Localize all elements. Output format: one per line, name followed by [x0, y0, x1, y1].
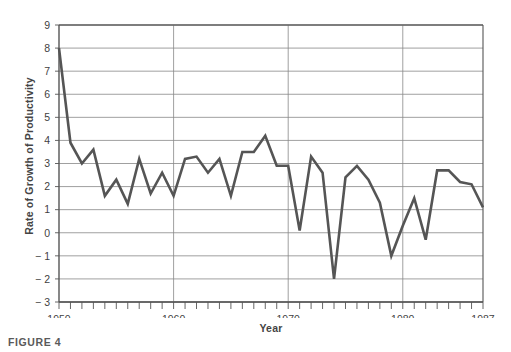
- x-tick-label-1950: 1950: [47, 313, 71, 318]
- y-tick-label-4: 4: [44, 134, 50, 146]
- figure-container: 9876543210− 1− 2− 3 19501960197019801987…: [0, 0, 511, 352]
- chart-plot-area: 9876543210− 1− 2− 3 19501960197019801987…: [0, 0, 511, 318]
- y-tick-label--2: − 2: [35, 273, 50, 285]
- x-tick-label-1970: 1970: [277, 313, 301, 318]
- figure-caption: FIGURE 4: [8, 336, 61, 348]
- y-tick-label-1: 1: [44, 203, 50, 215]
- y-tick-label-6: 6: [44, 88, 50, 100]
- x-tick-label-1980: 1980: [391, 313, 415, 318]
- y-tick-label--1: − 1: [35, 250, 50, 262]
- y-tick-label--3: − 3: [35, 296, 50, 308]
- y-tick-label-7: 7: [44, 65, 50, 77]
- y-axis-title: Rate of Growth of Productivity: [23, 41, 35, 271]
- y-tick-label-9: 9: [44, 19, 50, 31]
- line-chart-svg: 9876543210− 1− 2− 3 19501960197019801987: [0, 0, 511, 318]
- y-tick-label-5: 5: [44, 111, 50, 123]
- x-axis-title: Year: [59, 322, 483, 334]
- y-tick-label-0: 0: [44, 227, 50, 239]
- y-tick-label-8: 8: [44, 42, 50, 54]
- y-tick-label-2: 2: [44, 180, 50, 192]
- x-tick-label-1987: 1987: [471, 313, 495, 318]
- y-tick-label-3: 3: [44, 157, 50, 169]
- x-tick-label-1960: 1960: [162, 313, 186, 318]
